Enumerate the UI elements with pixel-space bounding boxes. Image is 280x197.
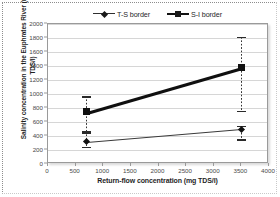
x-tick-mark xyxy=(102,163,103,166)
x-tick-mark xyxy=(130,163,131,166)
x-tick-label: 0 xyxy=(32,167,62,174)
x-tick-label: 3000 xyxy=(198,167,228,174)
x-tick-label: 500 xyxy=(60,167,90,174)
x-tick-label: 1500 xyxy=(115,167,145,174)
x-tick-label: 2000 xyxy=(143,167,173,174)
x-tick-mark xyxy=(47,163,48,166)
chart-figure: T-S border S-I border 020040060080010001… xyxy=(0,0,280,197)
x-tick-mark xyxy=(185,163,186,166)
x-tick-label: 2500 xyxy=(170,167,200,174)
x-tick-mark xyxy=(213,163,214,166)
y-axis-title: Salinity concentration in the Euphrates … xyxy=(20,0,37,141)
x-tick-mark xyxy=(158,163,159,166)
x-tick-mark xyxy=(75,163,76,166)
x-tick-label: 4000 xyxy=(253,167,280,174)
x-tick-mark xyxy=(240,163,241,166)
x-tick-label: 1000 xyxy=(87,167,117,174)
x-axis-ticks: 05001000150020002500300035004000 xyxy=(0,0,280,197)
x-tick-mark xyxy=(268,163,269,166)
x-axis-title: Return-flow concentration (mg TDS/l) xyxy=(47,177,268,184)
x-tick-label: 3500 xyxy=(225,167,255,174)
